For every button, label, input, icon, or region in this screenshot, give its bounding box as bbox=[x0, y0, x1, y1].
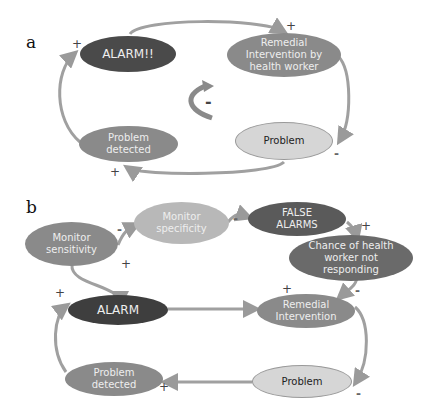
sign-b-false-alarms: - bbox=[233, 213, 238, 225]
sign-b-sensitivity-to-alarm: + bbox=[121, 258, 131, 270]
sign-a-remedial: + bbox=[286, 20, 296, 32]
sign-b-remedial-minus: - bbox=[355, 285, 360, 297]
arrow-a-remedial-to-problem bbox=[338, 56, 349, 140]
sign-b-alarm: + bbox=[55, 287, 65, 299]
sign-b-specificity: - bbox=[117, 224, 122, 236]
sign-b-remedial-plus: + bbox=[282, 283, 292, 295]
arrow-layer bbox=[0, 0, 443, 415]
node-b-chance: Chance of health worker not responding bbox=[289, 235, 413, 281]
arrow-b-specificity-to-falsealarms bbox=[228, 215, 248, 222]
sign-a-detected: + bbox=[110, 166, 120, 178]
panel-b-label: b bbox=[26, 197, 37, 217]
node-a-problem: Problem bbox=[235, 122, 333, 160]
node-b-false-alarms-label: FALSE ALARMS bbox=[276, 207, 317, 231]
node-a-detected-label: Problem detected bbox=[106, 132, 151, 156]
node-b-chance-label: Chance of health worker not responding bbox=[308, 240, 393, 276]
node-b-alarm-label: ALARM bbox=[97, 304, 139, 316]
node-b-specificity-label: Monitor specificity bbox=[156, 211, 206, 235]
node-a-alarm: ALARM!! bbox=[80, 36, 176, 72]
sign-b-problem: - bbox=[356, 388, 361, 400]
arrow-a-detected-to-alarm bbox=[60, 54, 80, 142]
arrow-a-alarm-to-remedial bbox=[130, 22, 283, 34]
node-b-sensitivity: Monitor sensitivity bbox=[25, 222, 118, 266]
node-a-problem-label: Problem bbox=[264, 135, 305, 147]
sign-b-chance: + bbox=[361, 220, 371, 232]
node-a-detected: Problem detected bbox=[79, 126, 178, 162]
sign-a-loop: - bbox=[205, 96, 212, 108]
node-b-remedial: Remedial Intervention bbox=[257, 294, 355, 328]
sign-a-problem: - bbox=[334, 148, 339, 160]
sign-b-detected: + bbox=[159, 381, 169, 393]
sign-a-alarm: + bbox=[72, 38, 82, 50]
node-b-specificity: Monitor specificity bbox=[134, 202, 229, 244]
node-b-problem-label: Problem bbox=[282, 376, 323, 388]
node-a-alarm-label: ALARM!! bbox=[102, 48, 154, 60]
arrow-b-remedial-to-problem bbox=[355, 307, 366, 382]
arrow-a-problem-to-detected bbox=[128, 162, 284, 173]
node-b-remedial-label: Remedial Intervention bbox=[275, 299, 336, 323]
node-b-problem: Problem bbox=[252, 365, 352, 398]
node-b-sensitivity-label: Monitor sensitivity bbox=[46, 232, 97, 256]
node-b-detected-label: Problem detected bbox=[92, 367, 137, 391]
node-a-remedial: Remedial Intervention by health worker bbox=[227, 33, 341, 77]
node-a-remedial-label: Remedial Intervention by health worker bbox=[246, 37, 322, 73]
panel-a-label: a bbox=[26, 32, 36, 52]
node-b-alarm: ALARM bbox=[68, 295, 168, 325]
node-b-false-alarms: FALSE ALARMS bbox=[248, 202, 346, 236]
arrow-b-detected-to-alarm bbox=[55, 306, 66, 372]
node-b-detected: Problem detected bbox=[65, 362, 163, 396]
